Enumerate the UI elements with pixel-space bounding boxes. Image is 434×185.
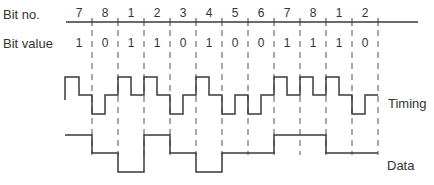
timing-diagram [0, 0, 434, 185]
timing-waveform [65, 77, 378, 114]
bit-dividers [92, 18, 378, 155]
